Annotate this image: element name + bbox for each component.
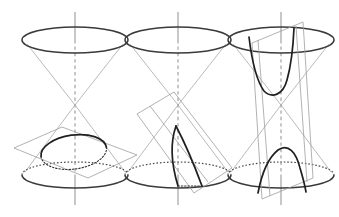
cutting-plane-face (252, 22, 313, 199)
conic-sections-figure (0, 0, 339, 217)
